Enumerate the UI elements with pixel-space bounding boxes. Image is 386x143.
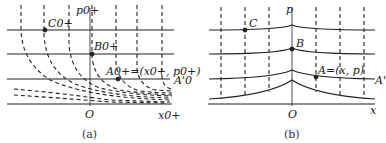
- origin-label-a: O: [85, 108, 94, 121]
- caption-b: (b): [284, 128, 300, 141]
- axis-y-label-a: p0+: [76, 4, 99, 17]
- figure: p0+ C0+ B0+ A0+=(x0+, p0+) A'0 O x0+ (a)…: [0, 0, 386, 143]
- panel-a: [7, 5, 174, 106]
- point-label-b: B: [295, 37, 304, 50]
- point-c: [243, 28, 247, 32]
- point-c0: [43, 28, 47, 32]
- point-label-b0: B0+: [93, 40, 118, 53]
- axis-y-label-b: p: [286, 3, 293, 16]
- line-label-a0: A'0: [173, 74, 192, 87]
- axis-x-label-a: x0+: [158, 109, 180, 122]
- origin-label-b: O: [288, 108, 297, 121]
- point-label-c0: C0+: [48, 17, 73, 30]
- caption-a: (a): [82, 128, 97, 141]
- point-label-a: A=(x, p): [317, 64, 364, 77]
- point-label-c: C: [249, 17, 258, 30]
- point-b: [290, 47, 294, 51]
- axis-x-label-b: x: [370, 104, 377, 117]
- panel-b: [208, 7, 375, 106]
- line-label-a: A': [374, 74, 386, 87]
